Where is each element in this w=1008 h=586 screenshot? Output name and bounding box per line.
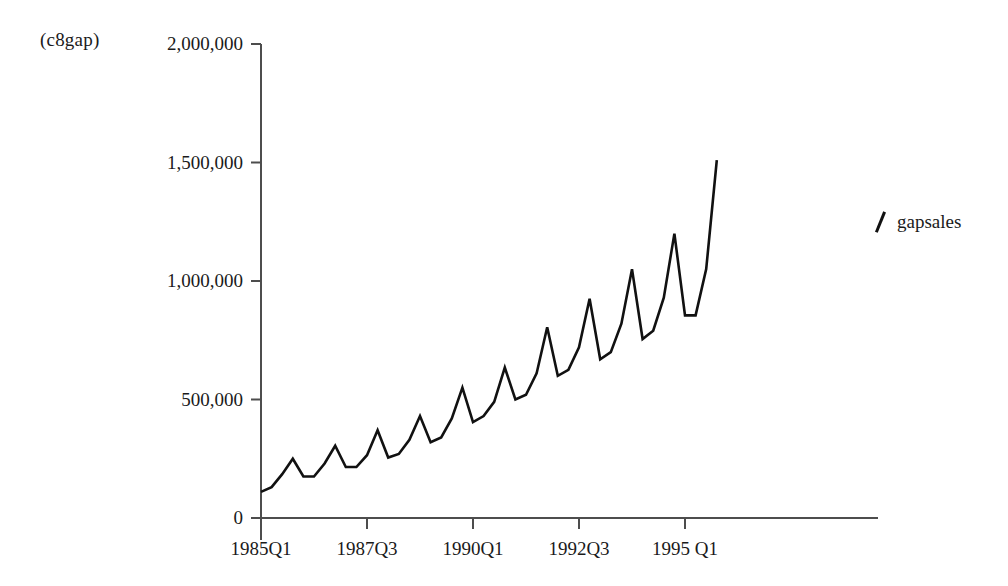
x-axis-tick-label: 1992Q3 [548,538,609,560]
y-axis-tick-label: 1,000,000 [0,270,243,292]
axis-lines [261,44,878,540]
x-axis-tick-label: 1985Q1 [230,538,291,560]
x-axis-ticks [261,518,685,529]
chart-container: (c8gap) 2,000,0001,500,0001,000,000500,0… [0,0,1008,586]
x-axis-tick-label: 1995 Q1 [652,538,718,560]
x-axis-tick-label: 1987Q3 [336,538,397,560]
legend-item-label: gapsales [897,211,961,233]
y-axis-tick-label: 2,000,000 [0,33,243,55]
line-series-gapsales [261,160,717,492]
y-axis-tick-label: 500,000 [0,389,243,411]
y-axis-ticks [251,44,261,518]
x-axis-tick-label: 1990Q1 [442,538,503,560]
y-axis-tick-label: 0 [0,507,243,529]
legend-line-icon [872,212,888,232]
legend: gapsales [872,211,961,233]
y-axis-tick-label: 1,500,000 [0,152,243,174]
data-series-layer [261,160,717,492]
plot-area [0,0,1008,586]
